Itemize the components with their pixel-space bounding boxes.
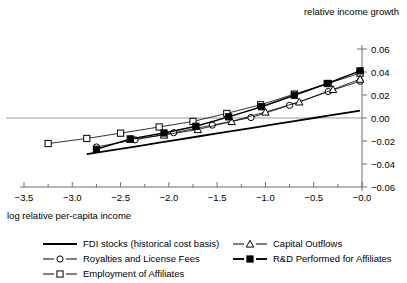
y-axis-tick-label: 0.06 [371,44,390,55]
legend-item[interactable]: Royalties and License Fees [42,251,232,266]
legend-item[interactable]: FDI stocks (historical cost basis) [42,236,232,251]
legend-swatch [42,267,78,281]
data-point-marker [84,135,90,141]
data-point-marker [161,130,167,136]
legend-label: Capital Outflows [273,237,342,251]
x-axis-tick-label: −3.5 [15,192,34,203]
data-point-marker [226,114,232,120]
legend-swatch [42,252,78,266]
legend-label: FDI stocks (historical cost basis) [83,237,219,251]
y-axis-tick-label: 0.00 [371,113,390,124]
data-point-marker [193,123,199,129]
data-point-marker [258,104,264,110]
data-point-marker [324,80,330,86]
x-axis-tick-label: −0.0 [353,192,372,203]
legend-marker-filled-square [232,252,268,266]
legend-marker-open-circle [42,252,78,266]
y-axis-tick-label: 0.02 [371,90,390,101]
data-point-marker [93,146,99,152]
legend-marker-none [42,237,78,251]
data-point-marker [45,140,51,146]
data-point-marker [117,130,123,136]
legend-column-right: Capital OutflowsR&D Performed for Affili… [232,236,407,266]
y-axis-tick-label: −0.02 [371,136,395,147]
legend-label: Royalties and License Fees [83,252,200,266]
legend-label: Employment of Affiliates [83,267,184,281]
data-point-marker [156,124,162,130]
y-axis-tick-label: −0.04 [371,159,395,170]
data-point-marker [296,98,303,105]
x-axis-tick-label: −2.5 [111,192,130,203]
legend-marker-open-triangle [232,237,268,251]
x-axis-tick-label: −0.5 [304,192,323,203]
legend-swatch [42,237,78,251]
data-point-marker [127,136,133,142]
legend-swatch [232,252,268,266]
legend-label: R&D Performed for Affiliates [273,252,392,266]
x-axis-tick-label: −2.0 [159,192,178,203]
legend-item[interactable]: R&D Performed for Affiliates [232,251,407,266]
series-line [48,73,360,143]
y-axis-tick-label: −0.06 [371,182,395,193]
chart-figure: relative income growth −3.5−3.0−2.5−2.0−… [0,0,407,283]
x-axis-tick-label: −1.0 [256,192,275,203]
legend-column-left: FDI stocks (historical cost basis)Royalt… [42,236,232,281]
y-axis-tick-label: 0.04 [371,67,390,78]
chart-legend: FDI stocks (historical cost basis)Royalt… [0,236,407,283]
legend-swatch [232,237,268,251]
x-axis-tick-label: −1.5 [208,192,227,203]
legend-item[interactable]: Capital Outflows [232,236,407,251]
data-point-marker [357,68,363,74]
x-axis-tick-label: −3.0 [63,192,82,203]
legend-marker-open-square [42,267,78,281]
data-point-marker [291,92,297,98]
legend-item[interactable]: Employment of Affiliates [42,266,232,281]
x-axis-title: log relative per-capita income [7,210,131,222]
